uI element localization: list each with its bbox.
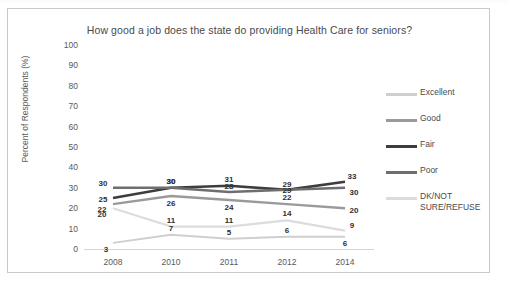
legend-item[interactable]: Excellent xyxy=(386,87,490,113)
legend-item-label: Excellent xyxy=(420,87,455,98)
data-label: 26 xyxy=(167,198,176,207)
legend-swatch-icon xyxy=(386,93,417,96)
plot-area: 3756622262422202530312933303028293020111… xyxy=(84,45,374,249)
x-axis-line xyxy=(84,249,374,250)
data-label: 29 xyxy=(283,185,292,194)
chart-title: How good a job does the state do providi… xyxy=(8,24,491,36)
x-tick-2008: 2008 xyxy=(104,257,123,267)
x-tick-2014: 2014 xyxy=(336,257,355,267)
y-axis-tick-labels: 0102030405060708090100 xyxy=(46,45,78,249)
legend-swatch-icon xyxy=(386,119,417,122)
y-tick-0: 0 xyxy=(48,244,78,254)
data-label: 30 xyxy=(350,187,359,196)
data-label: 30 xyxy=(167,176,176,185)
data-label: 5 xyxy=(227,227,231,236)
data-label: 3 xyxy=(104,244,108,253)
y-tick-60: 60 xyxy=(48,122,78,132)
data-label: 9 xyxy=(350,220,354,229)
legend-item[interactable]: Poor xyxy=(386,165,490,191)
legend-swatch-icon xyxy=(386,197,417,200)
data-label: 28 xyxy=(225,181,234,190)
y-tick-10: 10 xyxy=(48,224,78,234)
y-tick-100: 100 xyxy=(48,40,78,50)
data-label: 7 xyxy=(169,223,173,232)
data-label: 24 xyxy=(225,203,234,212)
data-label: 30 xyxy=(99,178,108,187)
data-label: 20 xyxy=(98,210,107,219)
y-tick-20: 20 xyxy=(48,203,78,213)
data-label: 14 xyxy=(283,209,292,218)
chart-frame: How good a job does the state do providi… xyxy=(7,8,490,273)
data-label: 11 xyxy=(167,215,175,224)
y-tick-50: 50 xyxy=(48,142,78,152)
legend-swatch-icon xyxy=(386,171,417,174)
y-axis-title: Percent of Respondents (%) xyxy=(20,29,30,189)
x-tick-2011: 2011 xyxy=(220,257,238,267)
legend-item[interactable]: DK/NOT SURE/REFUSE xyxy=(386,191,490,225)
data-label: 25 xyxy=(99,195,108,204)
data-label: 33 xyxy=(348,171,357,180)
y-tick-30: 30 xyxy=(48,183,78,193)
y-tick-70: 70 xyxy=(48,101,78,111)
x-tick-2012: 2012 xyxy=(278,257,297,267)
data-label: 20 xyxy=(350,206,359,215)
y-tick-40: 40 xyxy=(48,162,78,172)
legend-swatch-icon xyxy=(386,145,417,148)
legend-item-label: Fair xyxy=(420,139,435,150)
data-label: 11 xyxy=(225,215,233,224)
legend-item[interactable]: Fair xyxy=(386,139,490,165)
legend-item-label: DK/NOT SURE/REFUSE xyxy=(420,191,480,212)
legend: ExcellentGoodFairPoorDK/NOT SURE/REFUSE xyxy=(386,87,490,225)
legend-item[interactable]: Good xyxy=(386,113,490,139)
y-tick-80: 80 xyxy=(48,81,78,91)
legend-item-label: Good xyxy=(420,113,441,124)
legend-item-label: Poor xyxy=(420,165,438,176)
scan-artifact xyxy=(0,0,507,3)
y-tick-90: 90 xyxy=(48,60,78,70)
x-tick-2010: 2010 xyxy=(162,257,181,267)
data-label: 6 xyxy=(285,225,289,234)
data-label: 6 xyxy=(343,238,347,247)
chart-screenshot: How good a job does the state do providi… xyxy=(0,0,507,284)
